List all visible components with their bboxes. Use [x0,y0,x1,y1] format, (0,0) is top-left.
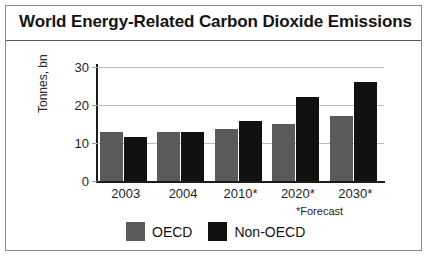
bar-group: 2004 [154,67,211,181]
y-tick-label: 0 [82,174,89,189]
bar-oecd-2030 [330,116,353,181]
y-tick-label: 30 [75,60,89,75]
bar-group: 2010* [212,67,269,181]
y-tick-label: 20 [75,98,89,113]
y-tick-label: 10 [75,136,89,151]
bar-oecd-2004 [157,132,180,181]
bar-non-oecd-2020 [296,97,319,181]
bar-oecd-2010 [215,129,238,181]
bar-groups: 200320042010*2020*2030* [97,67,384,181]
y-axis-title: Tonnes, bn [36,54,50,113]
legend-label: OECD [152,224,192,240]
bar-group: 2030* [327,67,384,181]
legend-item-non-oecd: Non-OECD [208,222,305,241]
bar-oecd-2003 [100,132,123,181]
bar-non-oecd-2030 [354,82,377,181]
title-bar: World Energy-Related Carbon Dioxide Emis… [6,6,421,41]
bar-non-oecd-2003 [124,137,147,181]
forecast-footnote: *Forecast [296,205,343,217]
chart-legend: OECDNon-OECD [126,222,305,241]
x-tick-label: 2004 [154,186,211,201]
bar-non-oecd-2010 [239,121,262,181]
bar-group: 2003 [97,67,154,181]
x-tick-label: 2030* [327,186,384,201]
y-tick-mark [92,181,97,182]
bar-group: 2020* [269,67,326,181]
legend-swatch [126,222,145,241]
legend-label: Non-OECD [234,224,305,240]
x-tick-label: 2003 [97,186,154,201]
bar-oecd-2020 [272,124,295,181]
x-tick-label: 2020* [269,186,326,201]
chart-figure: World Energy-Related Carbon Dioxide Emis… [5,5,422,251]
x-tick-label: 2010* [212,186,269,201]
plot-wrapper: Tonnes, bn 0102030 200320042010*2020*203… [6,41,423,251]
legend-swatch [208,222,227,241]
x-axis-line [96,181,385,183]
bar-non-oecd-2004 [181,132,204,181]
page-title: World Energy-Related Carbon Dioxide Emis… [19,12,412,32]
plot-area: 0102030 200320042010*2020*2030* [97,67,384,181]
legend-item-oecd: OECD [126,222,192,241]
